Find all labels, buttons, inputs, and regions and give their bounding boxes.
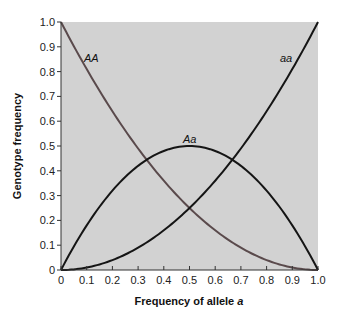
y-tick-label: 0.1	[40, 239, 55, 251]
y-tick-label: 0.2	[40, 214, 55, 226]
y-tick-label: 0.3	[40, 190, 55, 202]
x-tick-label: 0.9	[285, 274, 300, 286]
y-axis-ticks: 00.10.20.30.40.50.60.70.80.91.0	[40, 16, 61, 276]
y-tick-label: 0.6	[40, 115, 55, 127]
y-tick-label: 0.7	[40, 90, 55, 102]
x-axis-title: Frequency of allele a	[135, 295, 244, 307]
y-tick-label: 0.8	[40, 66, 55, 78]
genotype-frequency-chart: 00.10.20.30.40.50.60.70.80.91.0 00.10.20…	[0, 0, 345, 317]
y-tick-label: 0.9	[40, 41, 55, 53]
x-tick-label: 0.6	[208, 274, 223, 286]
curve-label-aa: aa	[280, 52, 292, 64]
x-tick-label: 0	[58, 274, 64, 286]
x-tick-label: 1.0	[310, 274, 325, 286]
curve-label-AA: AA	[83, 52, 99, 64]
x-tick-label: 0.8	[259, 274, 274, 286]
y-tick-label: 1.0	[40, 16, 55, 28]
curve-label-Aa: Aa	[182, 133, 196, 145]
x-tick-label: 0.7	[233, 274, 248, 286]
x-tick-label: 0.3	[130, 274, 145, 286]
y-tick-label: 0.5	[40, 140, 55, 152]
y-tick-label: 0	[49, 264, 55, 276]
x-tick-label: 0.5	[182, 274, 197, 286]
x-tick-label: 0.4	[156, 274, 171, 286]
x-tick-label: 0.2	[105, 274, 120, 286]
x-tick-label: 0.1	[79, 274, 94, 286]
y-axis-title: Genotype frequency	[11, 92, 23, 199]
y-tick-label: 0.4	[40, 165, 55, 177]
